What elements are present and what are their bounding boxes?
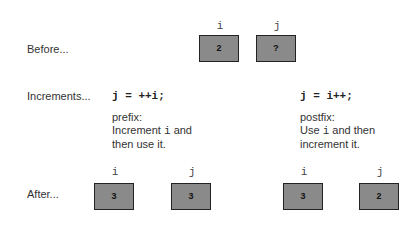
prefix-code: j = ++i;: [112, 90, 165, 102]
postfix-line1-text: Use: [300, 124, 323, 136]
after-postfix-var-i-box: 3: [283, 183, 323, 210]
after-prefix-var-i-name: i: [95, 166, 135, 178]
postfix-code: j = i++;: [300, 90, 353, 102]
prefix-line1-var: i: [164, 125, 171, 137]
postfix-line1: Use i and then: [300, 124, 375, 138]
after-prefix-var-j-box: 3: [171, 183, 211, 210]
prefix-line1: Increment i and: [112, 124, 192, 138]
before-var-i-name: i: [200, 20, 240, 32]
increments-label: Increments...: [27, 90, 91, 102]
after-prefix-var-i-box: 3: [94, 183, 134, 210]
postfix-description: postfix: Use i and then increment it.: [300, 111, 375, 151]
prefix-line1-text: Increment: [112, 124, 164, 136]
after-prefix-var-j-name: j: [172, 166, 212, 178]
prefix-description: prefix: Increment i and then use it.: [112, 111, 192, 151]
before-var-j-box: ?: [256, 35, 296, 62]
before-var-i-box: 2: [199, 35, 239, 62]
postfix-line1-post: and then: [329, 124, 375, 136]
before-var-j-name: j: [257, 20, 297, 32]
after-postfix-var-i-name: i: [284, 166, 324, 178]
prefix-line2: then use it.: [112, 138, 192, 151]
postfix-title: postfix:: [300, 111, 375, 124]
prefix-title: prefix:: [112, 111, 192, 124]
after-label: After...: [27, 188, 59, 200]
prefix-line1-post: and: [171, 124, 192, 136]
after-postfix-var-j-box: 2: [359, 183, 399, 210]
after-postfix-var-j-name: j: [360, 166, 400, 178]
postfix-line2: increment it.: [300, 138, 375, 151]
before-label: Before...: [27, 43, 69, 55]
